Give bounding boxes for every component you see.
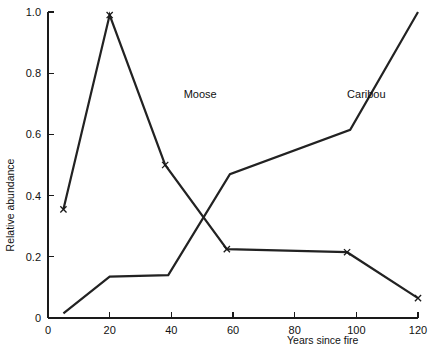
y-axis-ticks [48,12,54,257]
x-tick-label: 20 [104,324,116,336]
series-markers [60,12,421,301]
series-label-moose: Moose [184,88,217,100]
chart-figure: 00.20.40.60.81.0 020406080100120 MooseCa… [0,0,430,356]
y-axis-title: Relative abundance [4,158,16,251]
y-tick-label: 1.0 [26,6,41,18]
x-axis-title: Years since fire [287,334,359,346]
series-labels: MooseCaribou [184,88,386,100]
series-label-caribou: Caribou [347,88,386,100]
x-tick-label: 60 [227,324,239,336]
x-axis-ticks [110,312,418,318]
y-tick-label: 0.8 [26,67,41,79]
series-line-caribou [63,12,418,313]
x-tick-label: 0 [45,324,51,336]
y-tick-label: 0 [35,312,41,324]
series-line-moose [63,15,418,298]
y-tick-label: 0.6 [26,128,41,140]
line-chart: 00.20.40.60.81.0 020406080100120 MooseCa… [0,0,430,356]
x-tick-label: 40 [165,324,177,336]
x-tick-label: 120 [409,324,427,336]
y-tick-label: 0.2 [26,251,41,263]
series-lines [63,12,418,313]
x-axis-tick-labels: 020406080100120 [45,324,427,336]
y-axis-tick-labels: 00.20.40.60.81.0 [26,6,41,324]
y-tick-label: 0.4 [26,190,41,202]
data-point-marker [415,295,421,301]
chart-axes [48,12,418,318]
